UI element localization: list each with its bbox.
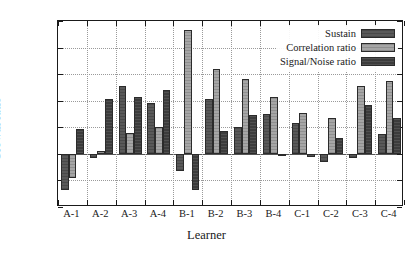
- bar: [90, 154, 98, 158]
- bar: [76, 129, 84, 154]
- bar: [270, 97, 278, 154]
- y-tick-mark: [58, 48, 63, 49]
- bar: [147, 103, 155, 153]
- gridline-horizontal: [58, 74, 402, 75]
- bar: [263, 114, 271, 154]
- x-tick-mark: [116, 21, 117, 26]
- bar: [163, 90, 171, 154]
- bar: [242, 79, 250, 153]
- x-tick-mark: [289, 200, 290, 205]
- bar: [126, 133, 134, 154]
- bar: [176, 154, 184, 171]
- bar: [378, 134, 386, 154]
- bar: [184, 30, 192, 154]
- bar: [220, 131, 228, 154]
- bar: [213, 69, 221, 154]
- y-tick-mark: [58, 127, 63, 128]
- legend-item: Signal/Noise ratio: [280, 55, 395, 68]
- x-axis-label: Learner: [0, 228, 413, 243]
- legend-label: Correlation ratio: [286, 42, 356, 53]
- bar: [105, 99, 113, 153]
- bar: [320, 154, 328, 162]
- bar: [336, 138, 344, 154]
- gridline-vertical: [87, 21, 88, 205]
- bar: [365, 105, 373, 154]
- bar: [386, 81, 394, 154]
- bar: [249, 115, 257, 154]
- bar: [393, 118, 401, 154]
- gridline-vertical: [116, 21, 117, 205]
- bar: [97, 151, 105, 154]
- bar: [205, 99, 213, 153]
- bar: [328, 118, 336, 154]
- bar: [349, 154, 357, 158]
- y-tick-mark: [397, 180, 402, 181]
- x-tick-mark: [87, 200, 88, 205]
- gridline-vertical: [260, 21, 261, 205]
- bar: [192, 154, 200, 190]
- x-tick-mark: [145, 21, 146, 26]
- legend-swatch: [361, 57, 395, 66]
- gridline-vertical: [231, 21, 232, 205]
- x-tick-mark: [260, 21, 261, 26]
- bar: [234, 127, 242, 154]
- x-tick-mark: [58, 21, 59, 26]
- y-tick-mark: [397, 101, 402, 102]
- x-tick-mark: [260, 200, 261, 205]
- x-tick-mark: [346, 200, 347, 205]
- x-tick-mark: [202, 200, 203, 205]
- bar: [134, 97, 142, 154]
- gridline-vertical: [145, 21, 146, 205]
- legend-item: Correlation ratio: [280, 41, 395, 54]
- bar: [119, 86, 127, 154]
- bar: [69, 154, 77, 178]
- gridline-vertical: [202, 21, 203, 205]
- x-tick-mark: [231, 200, 232, 205]
- x-tick-mark: [116, 200, 117, 205]
- x-tick-mark: [318, 200, 319, 205]
- y-tick-mark: [397, 154, 402, 155]
- x-tick-mark: [404, 21, 405, 26]
- bar: [307, 154, 315, 157]
- x-tick-mark: [375, 200, 376, 205]
- x-tick-mark: [404, 200, 405, 205]
- y-tick-mark: [58, 74, 63, 75]
- bar: [357, 86, 365, 154]
- bar: [299, 113, 307, 154]
- bar: [292, 123, 300, 154]
- legend-item: Sustain: [280, 27, 395, 40]
- x-tick-mark: [145, 200, 146, 205]
- x-tick-mark: [231, 21, 232, 26]
- gridline-horizontal: [58, 180, 402, 181]
- gridline-vertical: [173, 21, 174, 205]
- x-tick-mark: [173, 200, 174, 205]
- bar: [155, 127, 163, 154]
- bar-chart-figure: Growth ratio 10.80.60.40.20-0.2-0.4 Sust…: [0, 0, 413, 258]
- y-tick-mark: [397, 74, 402, 75]
- x-tick-mark: [173, 21, 174, 26]
- y-tick-mark: [397, 21, 402, 22]
- x-tick-label: C-4: [369, 208, 409, 219]
- legend-swatch: [361, 43, 395, 52]
- legend-label: Sustain: [325, 28, 356, 39]
- legend-label: Signal/Noise ratio: [280, 56, 356, 67]
- y-tick-mark: [58, 101, 63, 102]
- x-tick-mark: [202, 21, 203, 26]
- y-axis-label: Growth ratio: [0, 97, 4, 161]
- x-tick-mark: [58, 200, 59, 205]
- bar: [61, 154, 69, 190]
- plot-area: 10.80.60.40.20-0.2-0.4 SustainCorrelatio…: [57, 20, 403, 206]
- chart-legend: SustainCorrelation ratioSignal/Noise rat…: [277, 25, 398, 71]
- x-tick-mark: [87, 21, 88, 26]
- bar: [278, 154, 286, 156]
- legend-swatch: [361, 29, 395, 38]
